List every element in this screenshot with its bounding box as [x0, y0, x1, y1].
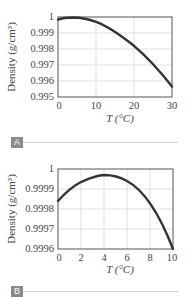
svg-text:0.995: 0.995	[30, 91, 54, 102]
chart-a-y-axis-label: Density (g/cm³)	[5, 22, 18, 92]
svg-text:1: 1	[49, 11, 54, 22]
chart-a-y-ticks: 1 0.999 0.998 0.997 0.996 0.995	[30, 11, 54, 102]
svg-text:0.9999: 0.9999	[25, 183, 54, 194]
svg-text:0.9998: 0.9998	[25, 203, 54, 214]
chart-b-x-axis-label: T (°C)	[106, 263, 134, 275]
svg-text:10: 10	[91, 100, 102, 111]
svg-text:2: 2	[78, 252, 83, 263]
chart-a-x-axis-label: T (°C)	[106, 112, 134, 125]
chart-a-x-ticks: 0 10 20 30	[56, 100, 177, 111]
svg-text:0.999: 0.999	[30, 27, 54, 38]
svg-text:0.9997: 0.9997	[25, 223, 54, 234]
svg-text:0: 0	[56, 252, 61, 263]
svg-text:8: 8	[147, 252, 152, 263]
svg-text:0.997: 0.997	[30, 59, 54, 70]
chart-b-grid	[58, 169, 173, 249]
panel-label-a: A	[11, 137, 23, 148]
svg-text:20: 20	[129, 100, 140, 111]
chart-a-grid	[58, 17, 172, 97]
chart-panel-a: 1 0.999 0.998 0.997 0.996 0.995 0 10 20 …	[0, 0, 193, 150]
svg-text:6: 6	[124, 252, 129, 263]
svg-text:4: 4	[101, 252, 107, 263]
svg-text:0.9996: 0.9996	[25, 243, 54, 254]
chart-b-density-curve	[58, 175, 173, 249]
chart-b-svg: 1 0.9999 0.9998 0.9997 0.9996 0 2 4 6 8 …	[0, 150, 193, 275]
chart-a-density-curve	[58, 18, 172, 87]
svg-text:0: 0	[56, 100, 61, 111]
svg-text:30: 30	[167, 100, 178, 111]
panel-label-b: B	[11, 286, 23, 297]
chart-panel-b: 1 0.9999 0.9998 0.9997 0.9996 0 2 4 6 8 …	[0, 150, 193, 297]
chart-b-y-ticks: 1 0.9999 0.9998 0.9997 0.9996	[25, 163, 54, 254]
chart-a-frame	[58, 17, 172, 97]
chart-a-svg: 1 0.999 0.998 0.997 0.996 0.995 0 10 20 …	[0, 0, 193, 125]
chart-b-y-axis-label: Density (g/cm³)	[5, 174, 18, 244]
svg-text:1: 1	[49, 163, 54, 174]
panel-b-divider	[23, 291, 178, 292]
svg-text:0.996: 0.996	[30, 75, 54, 86]
svg-text:10: 10	[167, 252, 178, 263]
chart-b-x-ticks: 0 2 4 6 8 10	[56, 252, 177, 263]
panel-a-divider	[23, 142, 178, 143]
svg-text:0.998: 0.998	[30, 43, 54, 54]
